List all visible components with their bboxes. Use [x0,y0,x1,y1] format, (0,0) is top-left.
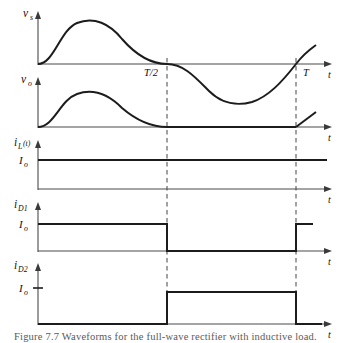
vo-waveform-rising-tail [296,112,316,127]
vo-time-axis-arrow [324,124,332,130]
iD1-time-axis-label: t [328,256,331,267]
vs-time-axis-label: t [328,69,331,80]
plot-iL: i L (t) I o t [14,136,332,205]
iL-time-axis-label: t [328,194,331,205]
waveform-diagram: v s T/2 T t v o t i [0,0,342,343]
label-half-period: T/2 [144,67,159,78]
vo-signal-subscript: o [28,79,32,88]
plot-iD2: i D2 I o t [14,259,332,340]
iD2-signal-label: i [14,259,17,271]
vs-signal-label: v [23,7,29,19]
iD2-vertical-axis-arrow [35,263,41,271]
iD2-level-subscript: o [24,288,28,297]
figure-container: v s T/2 T t v o t i [0,0,342,343]
label-full-period: T [303,67,310,78]
iD2-time-axis-arrow [324,321,332,327]
iD2-signal-subscript: D2 [17,265,28,274]
vs-signal-subscript: s [30,13,33,22]
iD1-signal-label: i [14,198,17,210]
vs-time-axis-arrow [324,61,332,67]
iL-signal-suffix: (t) [23,139,31,148]
iD1-level-subscript: o [24,224,28,233]
plot-vs: v s T/2 T t [23,7,332,104]
iD2-waveform [38,292,322,324]
plot-vo: v o t [21,73,332,143]
figure-caption: Figure 7.7 Waveforms for the full-wave r… [14,331,334,342]
iD1-time-axis-arrow [324,248,332,254]
iL-signal-label: i [14,136,17,148]
iL-vertical-axis-arrow [35,140,41,148]
plot-iD1: i D1 I o t [14,198,332,267]
vo-time-axis-label: t [328,132,331,143]
vs-vertical-axis-arrow [35,11,41,19]
vs-waveform [38,20,316,103]
iD1-waveform [38,224,313,251]
vo-vertical-axis-arrow [35,77,41,85]
iL-level-subscript: o [24,160,28,169]
vo-signal-label: v [21,73,27,85]
iD1-signal-subscript: D1 [17,204,28,213]
iD1-vertical-axis-arrow [35,202,41,210]
iL-time-axis-arrow [324,186,332,192]
time-marker-group [167,58,296,325]
iL-signal-subscript: L [17,142,22,151]
